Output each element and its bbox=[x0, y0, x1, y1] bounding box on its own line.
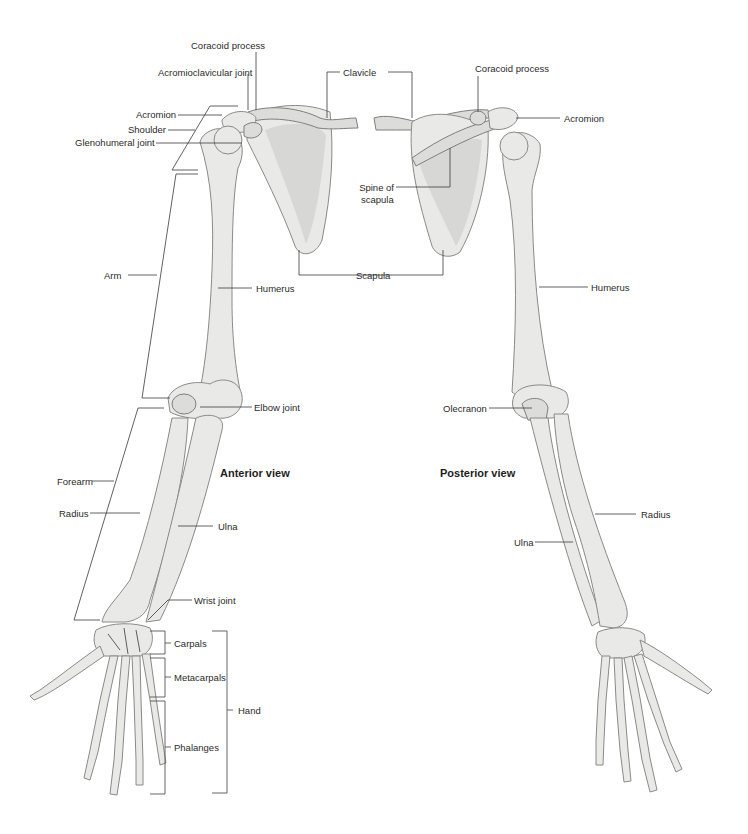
posterior-view-title: Posterior view bbox=[440, 467, 515, 479]
label-anterior-acromion: Acromion bbox=[136, 109, 176, 120]
label-spine-of-scapula-line2: scapula bbox=[361, 194, 394, 205]
anterior-carpals bbox=[94, 624, 152, 656]
anterior-skeleton bbox=[30, 105, 358, 795]
label-carpals: Carpals bbox=[174, 638, 207, 649]
anterior-humerus bbox=[200, 128, 242, 396]
label-elbow-joint: Elbow joint bbox=[254, 402, 300, 413]
posterior-carpals bbox=[596, 628, 645, 658]
label-metacarpals: Metacarpals bbox=[174, 672, 226, 683]
upper-limb-skeleton-illustration bbox=[0, 0, 748, 834]
label-phalanges: Phalanges bbox=[174, 742, 219, 753]
label-olecranon: Olecranon bbox=[443, 403, 487, 414]
label-forearm: Forearm bbox=[57, 476, 93, 487]
label-anterior-radius: Radius bbox=[59, 508, 89, 519]
label-acromioclavicular-joint: Acromioclavicular joint bbox=[158, 67, 253, 78]
label-scapula: Scapula bbox=[356, 270, 390, 281]
posterior-acromion bbox=[488, 108, 518, 130]
label-posterior-radius: Radius bbox=[641, 509, 671, 520]
posterior-humerus bbox=[503, 132, 552, 397]
label-posterior-acromion: Acromion bbox=[564, 113, 604, 124]
posterior-fingers bbox=[596, 640, 712, 792]
label-posterior-ulna: Ulna bbox=[514, 537, 534, 548]
label-anterior-ulna: Ulna bbox=[218, 521, 238, 532]
label-arm: Arm bbox=[104, 270, 121, 281]
label-glenohumeral-joint: Glenohumeral joint bbox=[75, 137, 155, 148]
label-clavicle: Clavicle bbox=[343, 67, 376, 78]
label-spine-of-scapula-line1: Spine of bbox=[358, 182, 394, 193]
label-shoulder: Shoulder bbox=[128, 124, 166, 135]
label-anterior-humerus: Humerus bbox=[256, 283, 295, 294]
label-wrist-joint: Wrist joint bbox=[194, 595, 236, 606]
label-anterior-coracoid-process: Coracoid process bbox=[191, 40, 265, 51]
anterior-view-title: Anterior view bbox=[220, 467, 290, 479]
label-hand: Hand bbox=[238, 705, 261, 716]
label-posterior-coracoid-process: Coracoid process bbox=[475, 63, 549, 74]
posterior-skeleton bbox=[374, 108, 712, 792]
anterior-fingers bbox=[30, 646, 166, 795]
label-posterior-humerus: Humerus bbox=[591, 282, 630, 293]
